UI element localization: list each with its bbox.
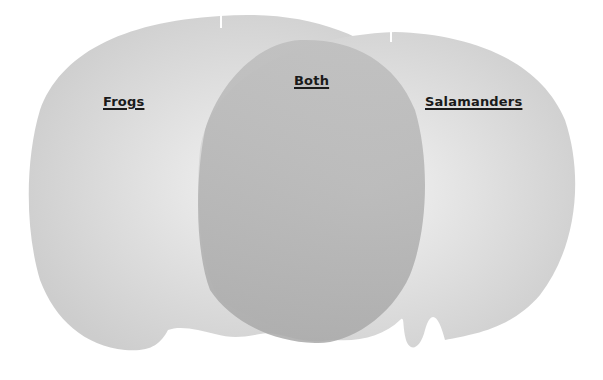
notch-left [220, 14, 222, 28]
salamanders-label: Salamanders [425, 94, 522, 109]
venn-diagram [0, 0, 603, 380]
notch-right [390, 28, 392, 42]
frogs-label: Frogs [103, 94, 144, 109]
both-label: Both [294, 73, 329, 88]
